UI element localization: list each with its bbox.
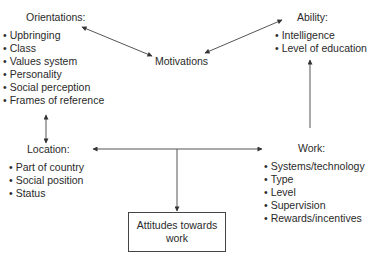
work-title: Work: [298, 142, 325, 154]
motivations-node: Motivations [155, 55, 208, 67]
list-item: Status [9, 187, 84, 200]
orientations-list: Upbringing Class Values system Personali… [3, 29, 104, 107]
list-item: Level of education [275, 42, 367, 55]
ability-title: Ability: [297, 11, 328, 23]
attitudes-towards-work-box: Attitudes towards work [128, 212, 226, 252]
ability-motivations-arrow [205, 20, 282, 53]
orientations-title: Orientations: [26, 11, 86, 23]
list-item: Personality [3, 68, 104, 81]
list-item: Supervision [264, 199, 365, 212]
location-list: Part of country Social position Status [9, 161, 84, 200]
list-item: Level [264, 186, 365, 199]
ability-list: Intelligence Level of education [275, 29, 367, 55]
list-item: Part of country [9, 161, 84, 174]
list-item: Systems/technology [264, 160, 365, 173]
list-item: Values system [3, 55, 104, 68]
list-item: Social perception [3, 81, 104, 94]
list-item: Intelligence [275, 29, 367, 42]
work-list: Systems/technology Type Level Supervisio… [264, 160, 365, 225]
list-item: Class [3, 42, 104, 55]
list-item: Rewards/incentives [264, 212, 365, 225]
location-title: Location: [27, 143, 70, 155]
list-item: Social position [9, 174, 84, 187]
list-item: Frames of reference [3, 94, 104, 107]
list-item: Type [264, 173, 365, 186]
list-item: Upbringing [3, 29, 104, 42]
